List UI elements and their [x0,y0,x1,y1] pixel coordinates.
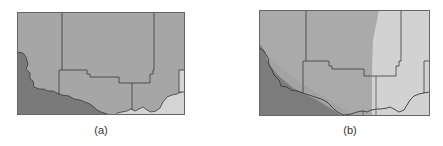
figure: (a) (b) [0,0,443,146]
map-a-svg [17,12,185,115]
caption-b: (b) [330,124,370,136]
map-b-svg [259,10,430,116]
map-panel-a [17,12,185,115]
caption-a: (a) [81,124,121,136]
map-panel-b [259,10,430,116]
